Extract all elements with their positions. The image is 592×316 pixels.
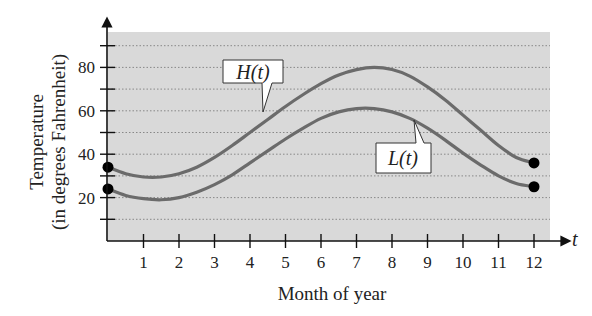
x-tick-label: 3 — [210, 253, 219, 272]
x-tick-label: 2 — [175, 253, 184, 272]
x-tick-label: 9 — [423, 253, 432, 272]
temperature-chart: 20406080123456789101112 H(t)L(t) t Month… — [0, 0, 592, 316]
plot-background — [108, 32, 550, 241]
y-tick-label: 60 — [78, 102, 95, 121]
x-axis-title: Month of year — [278, 283, 387, 304]
endpoint-dot — [529, 157, 540, 168]
x-tick-label: 5 — [281, 253, 290, 272]
x-tick-label: 1 — [139, 253, 148, 272]
endpoint-dot — [103, 183, 114, 194]
endpoint-dot — [529, 181, 540, 192]
y-axis-title-line2: (in degrees Fahrenheit) — [48, 54, 70, 230]
x-tick-label: 11 — [490, 253, 506, 272]
callout-label-l: L(t) — [387, 147, 418, 170]
x-tick-label: 6 — [317, 253, 326, 272]
x-tick-label: 4 — [246, 253, 255, 272]
x-tick-label: 12 — [526, 253, 543, 272]
y-tick-label: 80 — [78, 58, 95, 77]
x-axis-variable: t — [572, 228, 578, 250]
callout-label-h: H(t) — [235, 61, 270, 84]
x-tick-label: 10 — [455, 253, 472, 272]
x-tick-label: 7 — [352, 253, 361, 272]
endpoint-dot — [103, 162, 114, 173]
x-tick-label: 8 — [388, 253, 397, 272]
y-tick-label: 20 — [78, 189, 95, 208]
y-axis-title-line1: Temperature — [26, 94, 47, 190]
y-tick-label: 40 — [78, 145, 95, 164]
